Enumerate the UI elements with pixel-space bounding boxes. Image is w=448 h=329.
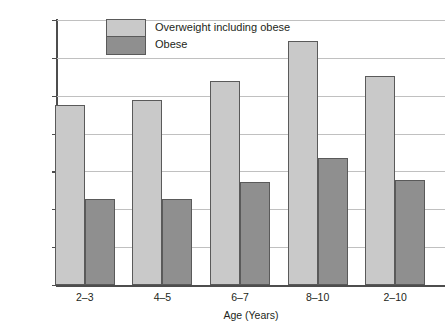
y-axis-tick xyxy=(52,96,57,97)
x-axis-line xyxy=(56,285,445,287)
legend-label-overweight: Overweight including obese xyxy=(155,19,290,36)
bar xyxy=(395,180,425,285)
legend-swatch-overweight xyxy=(107,20,145,37)
bar-chart: Percentage Age (Years) Overweight includ… xyxy=(0,0,448,329)
bar xyxy=(365,76,395,285)
x-axis-title: Age (Years) xyxy=(223,309,278,321)
bar xyxy=(162,199,192,285)
bar xyxy=(240,182,270,285)
bar xyxy=(85,199,115,285)
x-axis-tick-label: 2–3 xyxy=(76,291,94,303)
y-axis-tick xyxy=(52,20,57,21)
legend-labels: Overweight including obese Obese xyxy=(155,19,290,53)
y-axis-tick xyxy=(52,58,57,59)
legend-swatch-box xyxy=(106,19,146,55)
x-axis-tick-label: 2–10 xyxy=(384,291,407,303)
gridline xyxy=(57,58,445,59)
y-axis-tick xyxy=(52,285,57,286)
bar xyxy=(132,100,162,286)
bar xyxy=(55,105,85,285)
legend-label-obese: Obese xyxy=(155,36,290,53)
bar xyxy=(210,81,240,285)
legend-swatch-obese xyxy=(107,37,145,54)
x-axis-tick-label: 8–10 xyxy=(306,291,329,303)
x-axis-tick-label: 4–5 xyxy=(154,291,172,303)
x-axis-tick-label: 6–7 xyxy=(231,291,249,303)
bar xyxy=(318,158,348,285)
bar xyxy=(288,41,318,285)
chart-legend: Overweight including obese Obese xyxy=(106,19,290,55)
plot-area xyxy=(57,20,445,285)
